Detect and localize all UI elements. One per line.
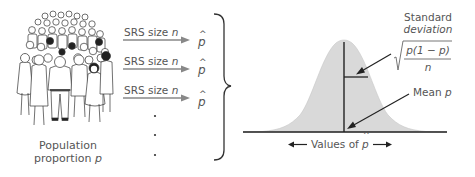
srs-label-2: SRS size n xyxy=(124,56,178,67)
axis-label: Values of ^p xyxy=(311,139,369,150)
srs-label-1: SRS size n xyxy=(124,27,178,38)
sd-formula-numerator: p(1 − p) xyxy=(404,45,452,56)
sample-proportion-2: ^p xyxy=(198,64,206,76)
srs-label-3: SRS size n xyxy=(124,85,178,96)
population-caption: Population proportion p xyxy=(14,139,122,165)
sd-formula-denominator: n xyxy=(404,62,452,73)
sampling-distribution-diagram: SRS size n SRS size n SRS size n ^p ^p ^… xyxy=(0,0,475,177)
grouping-brace xyxy=(214,14,231,160)
mean-label: Mean p xyxy=(413,87,452,98)
crowd-illustration xyxy=(17,11,113,125)
sample-proportion-3: ^p xyxy=(198,96,206,108)
continuation-dots xyxy=(154,115,156,156)
sd-label: Standard deviation xyxy=(400,11,456,35)
sample-proportion-1: ^p xyxy=(198,36,206,48)
